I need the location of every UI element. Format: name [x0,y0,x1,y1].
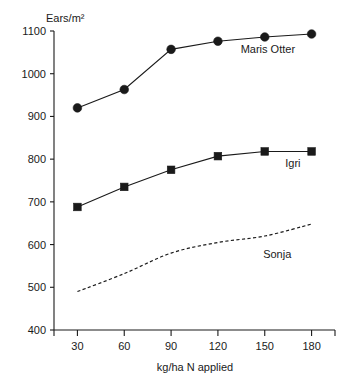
x-axis-ticks: 306090120150180 [54,330,335,352]
y-tick-label: 600 [28,239,46,251]
data-point-maris-otter [73,104,82,113]
x-tick-label: 180 [302,340,320,352]
series-label-maris-otter: Maris Otter [241,43,296,55]
y-tick-label: 800 [28,153,46,165]
ears-per-m2-line-chart: Ears/m² 40050060070080090010001100 30609… [0,0,341,384]
data-point-igri [308,148,316,156]
data-point-igri [120,183,128,191]
data-point-igri [261,148,269,156]
y-tick-label: 900 [28,110,46,122]
data-point-maris-otter [120,85,129,94]
data-point-igri [74,203,82,211]
y-axis-ticks: 40050060070080090010001100 [22,25,54,336]
data-point-maris-otter [307,30,316,39]
y-tick-label: 400 [28,324,46,336]
x-tick-label: 120 [209,340,227,352]
series-markers [73,30,316,211]
y-tick-label: 1000 [22,68,46,80]
y-tick-label: 700 [28,196,46,208]
y-axis-title: Ears/m² [46,12,85,24]
x-axis-title: kg/ha N applied [157,361,233,373]
series-line-igri [77,151,311,207]
data-point-maris-otter [167,45,176,54]
series-label-igri: Igri [285,157,300,169]
data-point-igri [214,152,222,160]
data-point-maris-otter [214,37,223,46]
data-point-igri [167,166,175,174]
series-label-sonja: Sonja [263,248,292,260]
x-tick-label: 150 [256,340,274,352]
data-point-maris-otter [260,33,269,42]
y-tick-label: 500 [28,281,46,293]
y-tick-label: 1100 [22,25,46,37]
x-tick-label: 30 [71,340,83,352]
x-tick-label: 60 [118,340,130,352]
x-tick-label: 90 [165,340,177,352]
chart-container: Ears/m² 40050060070080090010001100 30609… [0,0,341,384]
